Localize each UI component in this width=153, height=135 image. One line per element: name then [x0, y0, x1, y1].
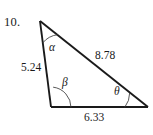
problem-number: 10.	[4, 16, 20, 29]
triangle-side-left	[40, 21, 51, 107]
side-length-label-left: 5.24	[21, 62, 41, 74]
triangle-figure: 10. 5.24 8.78 6.33 α β θ	[0, 0, 153, 135]
triangle-side-hypotenuse	[40, 21, 148, 107]
side-length-label-hypotenuse: 8.78	[95, 50, 115, 62]
angle-label-theta: θ	[114, 86, 120, 98]
angle-label-alpha: α	[49, 42, 55, 54]
angle-arc-beta	[54, 87, 72, 107]
angle-arc-theta	[125, 93, 130, 107]
angle-label-beta: β	[62, 77, 68, 89]
side-length-label-base: 6.33	[84, 112, 104, 124]
